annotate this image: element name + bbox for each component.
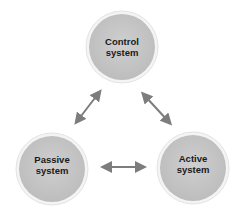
node-active-label-2: system <box>177 164 210 175</box>
node-control-label-1: Control <box>105 36 139 47</box>
double-arrow-control-passive <box>78 94 98 120</box>
node-passive-label-1: Passive <box>34 154 69 165</box>
node-control: Control system <box>86 11 158 83</box>
node-active-label-1: Active <box>179 153 208 164</box>
node-control-label-2: system <box>106 47 139 58</box>
cycle-diagram: Control system Passive system Active sys… <box>0 0 242 213</box>
double-arrow-control-active <box>145 96 168 121</box>
node-passive: Passive system <box>16 133 88 205</box>
node-passive-label-2: system <box>36 165 69 176</box>
node-active: Active system <box>157 132 229 204</box>
